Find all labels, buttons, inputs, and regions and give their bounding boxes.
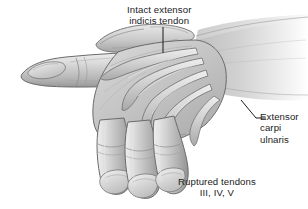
label-extensor-carpi-ulnaris: Extensor carpi ulnaris	[260, 111, 299, 145]
label-ruptured-line2: III, IV, V	[178, 187, 256, 198]
label-ruptured-tendons: Ruptured tendons III, IV, V	[178, 176, 256, 199]
label-intact-line1: Intact extensor	[127, 4, 191, 15]
label-intact-line2: indicis tendon	[127, 15, 191, 26]
label-ruptured-line1: Ruptured tendons	[178, 176, 256, 187]
label-ecu-line3: ulnaris	[260, 134, 299, 145]
medical-illustration-figure: Intact extensor indicis tendon Extensor …	[0, 0, 308, 209]
label-ecu-line2: carpi	[260, 122, 299, 133]
label-ecu-line1: Extensor	[260, 111, 299, 122]
hand-anatomy-drawing	[0, 0, 308, 209]
label-intact-extensor-indicis-tendon: Intact extensor indicis tendon	[127, 4, 191, 27]
